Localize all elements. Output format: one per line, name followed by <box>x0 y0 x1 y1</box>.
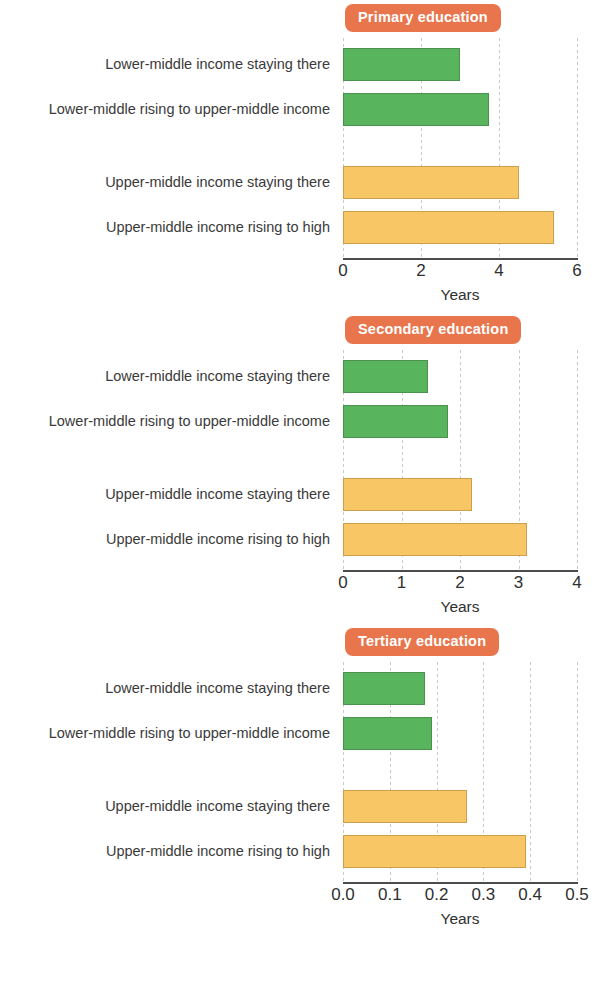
bar <box>343 360 428 393</box>
x-tick-label: 4 <box>494 261 503 281</box>
plot-area: Lower-middle income staying thereLower-m… <box>0 350 594 572</box>
x-axis-title-row: Years <box>0 910 594 936</box>
bar-row: Upper-middle income rising to high <box>0 211 594 244</box>
category-label: Upper-middle income rising to high <box>106 211 330 244</box>
x-axis-title: Years <box>440 910 479 928</box>
bar-row: Lower-middle income staying there <box>0 360 594 393</box>
bar-row: Upper-middle income staying there <box>0 790 594 823</box>
chart-title-badge: Primary education <box>345 4 501 32</box>
x-tick-label: 0.5 <box>565 885 589 905</box>
x-tick-label: 1 <box>397 573 406 593</box>
category-label: Lower-middle income staying there <box>105 48 330 81</box>
chart-title-badge: Tertiary education <box>345 628 499 656</box>
bar <box>343 835 526 868</box>
category-label: Lower-middle income staying there <box>105 672 330 705</box>
x-tick-label: 0.3 <box>472 885 496 905</box>
chart-title-badge: Secondary education <box>345 316 521 344</box>
bar-row: Lower-middle rising to upper-middle inco… <box>0 405 594 438</box>
bar-row: Upper-middle income staying there <box>0 478 594 511</box>
category-label: Upper-middle income staying there <box>105 478 330 511</box>
bar <box>343 523 527 556</box>
x-tick-label: 4 <box>572 573 581 593</box>
bar <box>343 93 489 126</box>
x-tick-label: 0 <box>338 573 347 593</box>
chart-title-row: Secondary education <box>0 312 594 350</box>
category-label: Upper-middle income rising to high <box>106 523 330 556</box>
x-tick-label: 2 <box>416 261 425 281</box>
bar <box>343 211 554 244</box>
x-axis-ticks: 01234 <box>0 572 594 598</box>
bar-row: Lower-middle income staying there <box>0 672 594 705</box>
x-tick-label: 6 <box>572 261 581 281</box>
bar-row: Lower-middle income staying there <box>0 48 594 81</box>
bar-row: Lower-middle rising to upper-middle inco… <box>0 717 594 750</box>
bar-row: Upper-middle income rising to high <box>0 835 594 868</box>
bar-row: Upper-middle income rising to high <box>0 523 594 556</box>
x-tick-label: 0.4 <box>518 885 542 905</box>
plot-area: Lower-middle income staying thereLower-m… <box>0 662 594 884</box>
bar-chart-figure: Primary educationLower-middle income sta… <box>0 0 594 936</box>
chart-title-row: Tertiary education <box>0 624 594 662</box>
x-tick-label: 0.1 <box>378 885 402 905</box>
bar <box>343 478 472 511</box>
x-axis-title-row: Years <box>0 286 594 312</box>
category-label: Upper-middle income rising to high <box>106 835 330 868</box>
bar <box>343 672 425 705</box>
x-tick-label: 2 <box>455 573 464 593</box>
category-label: Upper-middle income staying there <box>105 166 330 199</box>
bar-row: Upper-middle income staying there <box>0 166 594 199</box>
bar-row: Lower-middle rising to upper-middle inco… <box>0 93 594 126</box>
category-label: Lower-middle rising to upper-middle inco… <box>49 717 330 750</box>
x-tick-label: 0 <box>338 261 347 281</box>
x-tick-label: 0.2 <box>425 885 449 905</box>
chart-panel-3: Tertiary educationLower-middle income st… <box>0 624 594 936</box>
bar <box>343 717 432 750</box>
x-axis-ticks: 0.00.10.20.30.40.5 <box>0 884 594 910</box>
bar <box>343 790 467 823</box>
bar <box>343 48 460 81</box>
x-axis-title: Years <box>440 286 479 304</box>
category-label: Lower-middle income staying there <box>105 360 330 393</box>
x-axis-ticks: 0246 <box>0 260 594 286</box>
category-label: Upper-middle income staying there <box>105 790 330 823</box>
category-label: Lower-middle rising to upper-middle inco… <box>49 93 330 126</box>
x-tick-label: 3 <box>514 573 523 593</box>
bar <box>343 166 519 199</box>
chart-panel-2: Secondary educationLower-middle income s… <box>0 312 594 624</box>
x-tick-label: 0.0 <box>331 885 355 905</box>
category-label: Lower-middle rising to upper-middle inco… <box>49 405 330 438</box>
x-axis-title-row: Years <box>0 598 594 624</box>
chart-title-row: Primary education <box>0 0 594 38</box>
x-axis-title: Years <box>440 598 479 616</box>
chart-panel-1: Primary educationLower-middle income sta… <box>0 0 594 312</box>
plot-area: Lower-middle income staying thereLower-m… <box>0 38 594 260</box>
bar <box>343 405 448 438</box>
